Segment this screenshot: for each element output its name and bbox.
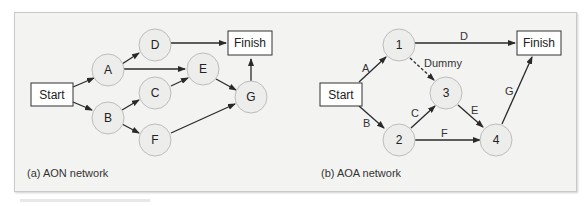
aon-node-finish: Finish <box>228 31 272 55</box>
edge-label-d: D <box>460 30 468 42</box>
aoa-network: Start Finish 1 2 3 4 A B C D E F G Dummy… <box>320 29 561 179</box>
svg-text:Start: Start <box>328 88 354 102</box>
edge-label-a: A <box>362 62 370 74</box>
aoa-label-1: 1 <box>396 38 403 52</box>
svg-text:Finish: Finish <box>234 36 266 50</box>
svg-text:Finish: Finish <box>523 36 555 50</box>
aon-label-a: A <box>104 63 112 77</box>
aoa-caption: (b) AOA network <box>321 167 402 179</box>
footer-faint-text <box>20 199 150 202</box>
edge-start-b <box>73 102 92 110</box>
aoa-node-finish: Finish <box>517 31 561 55</box>
edge-b-f <box>122 124 139 133</box>
edge-c-e <box>171 78 188 86</box>
edge-b-c <box>122 100 139 110</box>
edge-label-b: B <box>363 117 370 129</box>
edge-label-dummy: Dummy <box>424 57 462 69</box>
edge-label-e: E <box>471 104 478 116</box>
aon-label-e: E <box>199 62 207 76</box>
network-diagrams: Start Finish A B C D E F G (a) AON netwo… <box>0 0 585 206</box>
edge-f-g <box>171 104 235 133</box>
aon-label-f: F <box>151 133 158 147</box>
aoa-label-2: 2 <box>396 133 403 147</box>
aon-label-g: G <box>246 90 255 104</box>
aon-label-b: B <box>104 111 112 125</box>
edge-a-d <box>122 53 139 64</box>
edge-label-f: F <box>441 127 448 139</box>
edge-label-c: C <box>411 107 419 119</box>
edge-e-g <box>216 79 236 90</box>
svg-text:Start: Start <box>39 88 65 102</box>
aon-label-d: D <box>151 38 160 52</box>
aon-caption: (a) AON network <box>27 167 109 179</box>
aon-label-c: C <box>151 86 160 100</box>
aoa-node-start: Start <box>320 83 362 106</box>
edge-label-g: G <box>505 85 514 97</box>
aoa-label-3: 3 <box>443 86 450 100</box>
edge-start-a <box>73 78 94 87</box>
aoa-label-4: 4 <box>493 133 500 147</box>
aon-node-start: Start <box>31 83 73 106</box>
aon-network: Start Finish A B C D E F G (a) AON netwo… <box>27 29 272 179</box>
